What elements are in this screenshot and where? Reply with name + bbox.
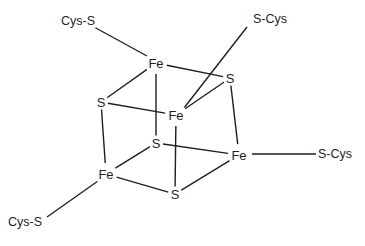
atom-label-fe-right: Fe <box>230 148 248 163</box>
ligand-label-cys-bottom-left: Cys-S <box>7 216 43 229</box>
atom-label-s-left: S <box>95 95 107 110</box>
atom-label-fe-center: Fe <box>167 108 185 123</box>
ligbond-top-right <box>184 27 247 108</box>
ligand-label-cys-top-right: S-Cys <box>252 13 288 26</box>
iron-sulfur-cluster-diagram: FeFeFeFeSSSS Cys-SS-CysS-CysCys-S <box>0 0 365 246</box>
bond-fecenter-supperright <box>185 82 224 109</box>
bond-fetop-supperright <box>167 65 223 76</box>
ligand-label-cys-right: S-Cys <box>317 148 353 161</box>
atom-label-fe-bottomleft: Fe <box>97 167 115 182</box>
atom-label-fe-top: Fe <box>147 56 165 71</box>
cube-bond-group <box>101 65 237 192</box>
ligbond-top-left <box>94 27 147 56</box>
atom-label-s-upperright: S <box>224 71 236 86</box>
bond-fetop-sleft <box>107 69 147 98</box>
bond-febl-sbottom <box>117 177 169 192</box>
bond-feright-sbottom <box>181 161 230 191</box>
cluster-bond-canvas <box>0 0 365 246</box>
bond-febl-sleft <box>101 109 105 163</box>
atom-label-s-bottom: S <box>169 187 181 202</box>
atom-label-s-inner: S <box>150 136 162 151</box>
bond-febl-sinner <box>115 147 150 169</box>
bond-feright-supperright <box>231 85 238 144</box>
bond-feright-sinner <box>163 144 228 153</box>
bond-fecenter-sbottom <box>175 126 176 187</box>
ligand-label-cys-top-left: Cys-S <box>60 15 96 28</box>
ligbond-bottom-left <box>47 181 98 217</box>
